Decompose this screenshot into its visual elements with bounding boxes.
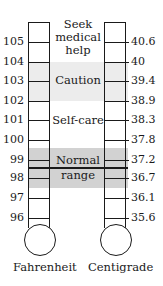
tick-label: 99: [0, 154, 24, 166]
fahrenheit-label: Fahrenheit: [13, 260, 77, 274]
fahrenheit-thermometer-bulb: [24, 224, 56, 256]
tick-label: 37.8: [131, 134, 156, 146]
tick: [104, 120, 129, 121]
tick: [104, 81, 129, 82]
tick-label: 105: [0, 36, 24, 48]
tick: [104, 178, 129, 179]
tick: [28, 178, 50, 179]
tick: [28, 101, 50, 102]
tick: [104, 160, 129, 161]
tick: [28, 218, 50, 219]
tick-label: 96: [0, 212, 24, 224]
tick: [104, 42, 129, 43]
tick: [104, 140, 129, 141]
caution-label: Caution: [52, 74, 104, 87]
zone-text: Normal: [52, 154, 104, 167]
tick-label: 40: [131, 56, 145, 68]
tick-label: 37.2: [131, 154, 156, 166]
zone-text: range: [52, 169, 104, 182]
tick-label: 98: [0, 172, 24, 184]
tick-label: 38.9: [131, 95, 156, 107]
tick: [28, 198, 50, 199]
tick: [104, 62, 129, 63]
tick-label: 103: [0, 75, 24, 87]
tick-label: 38.3: [131, 114, 156, 126]
tick-label: 36.7: [131, 172, 156, 184]
centigrade-thermometer-bulb: [100, 224, 132, 256]
seek-medical-help-label: Seek medical help: [52, 18, 104, 57]
tick-label: 40.6: [131, 36, 156, 48]
tick: [28, 160, 50, 161]
tick-label: 35.6: [131, 212, 156, 224]
zone-text: help: [52, 44, 104, 57]
centigrade-label: Centigrade: [88, 260, 153, 274]
tick-label: 100: [0, 134, 24, 146]
tick: [28, 120, 50, 121]
tick: [28, 42, 50, 43]
tick-label: 102: [0, 95, 24, 107]
tick: [28, 81, 50, 82]
self-care-label: Self-care: [52, 114, 104, 127]
tick-label: 104: [0, 56, 24, 68]
tick-label: 39.4: [131, 75, 156, 87]
tick-label: 97: [0, 192, 24, 204]
normal-range-label: Normal range: [52, 154, 104, 182]
tick-label: 36.1: [131, 192, 156, 204]
tick: [104, 198, 129, 199]
tick-label: 101: [0, 114, 24, 126]
tick: [104, 101, 129, 102]
tick: [104, 218, 129, 219]
tick: [28, 62, 50, 63]
tick: [28, 140, 50, 141]
